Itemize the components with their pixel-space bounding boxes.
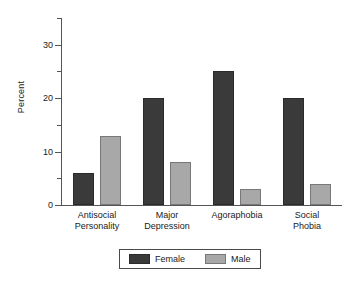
- legend-item-female[interactable]: Female: [129, 254, 185, 264]
- legend-label-male: Male: [231, 254, 251, 264]
- y-tick-25: [57, 71, 61, 72]
- y-tick-label-10: 10: [31, 147, 53, 157]
- plot-area: [62, 18, 342, 205]
- y-tick-label-wrap-0: 0: [28, 205, 53, 206]
- y-tick-label-wrap-10: 10: [28, 152, 53, 153]
- x-axis-line: [61, 205, 342, 206]
- bar-male[interactable]: [310, 184, 331, 205]
- x-axis-label-line1: Agoraphobia: [211, 210, 262, 220]
- bar-female[interactable]: [283, 98, 304, 205]
- legend-swatch-male-icon: [205, 254, 226, 264]
- bar-group: [202, 18, 272, 205]
- y-tick-label-30: 30: [31, 40, 53, 50]
- x-axis-label-line1: Major: [156, 210, 179, 220]
- chart-legend: Female Male: [119, 249, 261, 269]
- legend-item-male[interactable]: Male: [205, 254, 251, 264]
- y-tick-label-wrap-30: 30: [28, 45, 53, 46]
- x-axis-label-line2: Phobia: [261, 221, 353, 232]
- x-axis-label-line1: Social: [295, 210, 320, 220]
- bar-female[interactable]: [143, 98, 164, 205]
- y-tick-5: [57, 178, 61, 179]
- legend-swatch-female-icon: [129, 254, 150, 264]
- y-tick-label-20: 20: [31, 93, 53, 103]
- bar-group: [132, 18, 202, 205]
- bar-female[interactable]: [73, 173, 94, 205]
- bar-group: [62, 18, 132, 205]
- bar-male[interactable]: [170, 162, 191, 205]
- x-axis-label: SocialPhobia: [261, 210, 353, 232]
- y-axis-title: Percent: [16, 67, 26, 127]
- y-tick-30: [55, 45, 61, 46]
- y-tick-label-0: 0: [31, 200, 53, 210]
- y-tick-20: [55, 98, 61, 99]
- bar-male[interactable]: [100, 136, 121, 205]
- bar-male[interactable]: [240, 189, 261, 205]
- y-tick-15: [57, 125, 61, 126]
- x-axis-label-line2: Depression: [121, 221, 213, 232]
- bar-group: [272, 18, 342, 205]
- bar-chart: Percent 0102030 AntisocialPersonalityMaj…: [0, 0, 354, 288]
- y-tick-label-wrap-20: 20: [28, 98, 53, 99]
- x-axis-label-line1: Antisocial: [78, 210, 117, 220]
- y-tick-0: [55, 205, 61, 206]
- legend-label-female: Female: [155, 254, 185, 264]
- bar-female[interactable]: [213, 71, 234, 205]
- y-tick-35: [57, 18, 61, 19]
- y-tick-10: [55, 152, 61, 153]
